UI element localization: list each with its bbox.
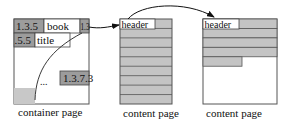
content-page-2-row: [203, 38, 277, 47]
content-page-1-header-text: header: [122, 19, 149, 30]
cell-title-text: title: [37, 34, 54, 46]
content-page-2-row: [203, 47, 277, 56]
cell-1-3-text: 1.3: [81, 20, 90, 32]
container-page: 1.3.5 book 1.3 .5.5 title 1.3.7.3 ... co…: [14, 19, 94, 118]
arrow-to-content-page-2: [128, 6, 214, 19]
content-page-1-frame: [120, 19, 172, 104]
container-page-label: container page: [18, 106, 83, 118]
page-diagram: 1.3.5 book 1.3 .5.5 title 1.3.7.3 ... co…: [0, 0, 291, 124]
content-page-2-label: content page: [206, 107, 262, 119]
cell-book-text: book: [47, 20, 70, 32]
cell-continuation: [14, 88, 35, 104]
ellipsis-text: ...: [40, 76, 48, 87]
cell-1-3-5-text: 1.3.5: [16, 20, 39, 32]
arrow-to-content-page-1: [89, 25, 119, 28]
content-page-2-row: [203, 28, 277, 37]
content-page-1-label: content page: [123, 107, 179, 119]
cell-5-5-text: .5.5: [15, 34, 32, 46]
content-page-1: header content page: [120, 19, 179, 120]
content-page-2-header-text: header: [205, 19, 232, 30]
content-page-2: headercontent page: [203, 19, 277, 120]
cell-1-3-7-3-text: 1.3.7.3: [63, 72, 94, 84]
content-page-2-partial-row: [203, 57, 242, 66]
